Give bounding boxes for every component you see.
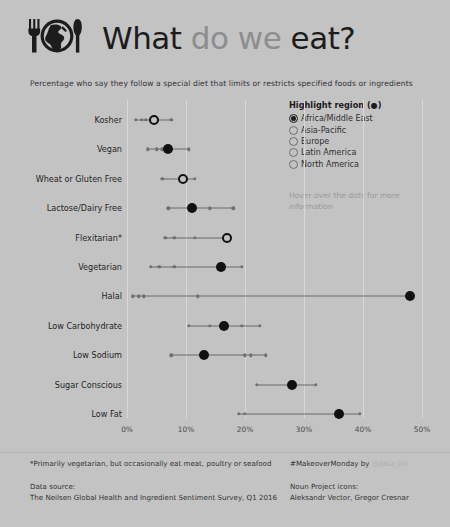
data-dot-other[interactable]	[172, 236, 175, 239]
row-label-lactose-dairy-free: Lactose/Dairy Free	[18, 203, 122, 213]
legend-option-label: Europe	[301, 137, 329, 146]
x-axis-tick-label: 30%	[296, 425, 312, 434]
row-label-vegan: Vegan	[18, 144, 122, 154]
legend-option-label: Africa/Middle East	[301, 114, 373, 123]
data-dot-other[interactable]	[208, 324, 211, 327]
data-dot-other[interactable]	[314, 383, 317, 386]
data-dot-other[interactable]	[170, 118, 173, 121]
radio-button-icon[interactable]	[289, 126, 298, 135]
data-dot-other[interactable]	[240, 265, 243, 268]
data-dot-highlight[interactable]	[287, 380, 297, 390]
radio-button-icon[interactable]	[289, 160, 298, 169]
data-dot-other[interactable]	[134, 118, 137, 121]
legend-option-5[interactable]: North America	[289, 159, 439, 170]
data-dot-other[interactable]	[131, 295, 134, 298]
page-title: What do we eat?	[102, 23, 355, 54]
data-dot-highlight[interactable]	[222, 233, 232, 243]
radio-button-icon[interactable]	[289, 114, 298, 123]
row-connector-line	[136, 120, 171, 121]
row-connector-line	[165, 237, 227, 238]
row-connector-line	[148, 149, 189, 150]
data-dot-highlight[interactable]	[219, 321, 229, 331]
gridline-10%	[186, 100, 187, 418]
title-part-1: What	[102, 20, 191, 56]
data-dot-other[interactable]	[255, 383, 258, 386]
makeover-monday-credit: #MakeoverMonday by @data_ish	[290, 459, 408, 468]
row-label-flexitarian: Flexitarian*	[18, 233, 122, 243]
radio-button-icon[interactable]	[289, 148, 298, 157]
data-dot-highlight[interactable]	[163, 144, 173, 154]
data-dot-highlight[interactable]	[187, 203, 197, 213]
data-dot-other[interactable]	[144, 118, 147, 121]
data-dot-highlight[interactable]	[405, 291, 415, 301]
gridline-0%	[127, 100, 128, 418]
data-dot-other[interactable]	[187, 148, 190, 151]
noun-project-value: Aleksandr Vector, Gregor Cresnar	[290, 493, 409, 504]
row-label-low-fat: Low Fat	[18, 409, 122, 419]
row-connector-line	[133, 296, 410, 297]
subtitle: Percentage who say they follow a special…	[30, 79, 413, 88]
data-dot-highlight[interactable]	[149, 115, 159, 125]
data-dot-other[interactable]	[158, 265, 161, 268]
x-axis-tick-label: 50%	[414, 425, 430, 434]
data-dot-highlight[interactable]	[199, 350, 209, 360]
legend-option-3[interactable]: Europe	[289, 136, 439, 147]
legend-option-4[interactable]: Latin America	[289, 147, 439, 158]
data-dot-other[interactable]	[193, 236, 196, 239]
data-dot-other[interactable]	[161, 148, 164, 151]
data-dot-other[interactable]	[155, 148, 158, 151]
row-connector-line	[239, 414, 360, 415]
x-axis-tick-label: 0%	[121, 425, 133, 434]
legend-option-2[interactable]: Asia-Pacific	[289, 124, 439, 135]
data-dot-other[interactable]	[231, 206, 234, 209]
data-dot-highlight[interactable]	[216, 262, 226, 272]
x-axis-tick-label: 40%	[355, 425, 371, 434]
footer-divider	[0, 452, 450, 453]
data-dot-other[interactable]	[172, 265, 175, 268]
radio-button-icon[interactable]	[289, 137, 298, 146]
data-dot-other[interactable]	[196, 295, 199, 298]
row-label-wheat-or-gluten-free: Wheat or Gluten Free	[18, 174, 122, 184]
legend-option-1[interactable]: Africa/Middle East	[289, 113, 439, 124]
data-dot-other[interactable]	[243, 412, 246, 415]
data-dot-other[interactable]	[142, 295, 145, 298]
data-dot-other[interactable]	[258, 324, 261, 327]
fork-globe-knife-icon	[26, 16, 88, 60]
data-dot-highlight[interactable]	[334, 409, 344, 419]
infographic-root: What do we eat? Percentage who say they …	[0, 0, 450, 527]
row-connector-line	[162, 178, 194, 179]
header: What do we eat?	[0, 0, 450, 60]
row-connector-line	[171, 355, 265, 356]
data-dot-other[interactable]	[161, 177, 164, 180]
data-dot-highlight[interactable]	[178, 174, 188, 184]
data-dot-other[interactable]	[249, 353, 252, 356]
data-dot-other[interactable]	[358, 412, 361, 415]
data-dot-other[interactable]	[146, 148, 149, 151]
data-source-label: Data source:	[30, 482, 277, 493]
data-dot-other[interactable]	[187, 324, 190, 327]
makeover-monday-handle[interactable]: @data_ish	[372, 459, 409, 468]
hover-hint-text: Hover over the dots for more information	[289, 190, 419, 212]
row-label-low-sodium: Low Sodium	[18, 350, 122, 360]
row-label-sugar-conscious: Sugar Conscious	[18, 380, 122, 390]
legend-option-list: Africa/Middle EastAsia-PacificEuropeLati…	[289, 113, 439, 170]
data-dot-other[interactable]	[167, 206, 170, 209]
footnote: *Primarily vegetarian, but occasionally …	[30, 459, 271, 468]
data-dot-other[interactable]	[149, 265, 152, 268]
x-axis-tick-label: 20%	[237, 425, 253, 434]
legend-dot-glyph: ●	[371, 101, 378, 110]
data-dot-other[interactable]	[243, 353, 246, 356]
row-label-vegetarian: Vegetarian	[18, 262, 122, 272]
row-label-halal: Halal	[18, 291, 122, 301]
data-dot-other[interactable]	[208, 206, 211, 209]
title-part-3: eat?	[291, 20, 356, 56]
data-dot-other[interactable]	[264, 353, 267, 356]
data-dot-other[interactable]	[193, 177, 196, 180]
row-connector-line	[189, 325, 260, 326]
data-dot-other[interactable]	[164, 236, 167, 239]
data-dot-other[interactable]	[140, 118, 143, 121]
data-dot-other[interactable]	[240, 324, 243, 327]
data-dot-other[interactable]	[170, 353, 173, 356]
data-dot-other[interactable]	[237, 412, 240, 415]
data-dot-other[interactable]	[137, 295, 140, 298]
